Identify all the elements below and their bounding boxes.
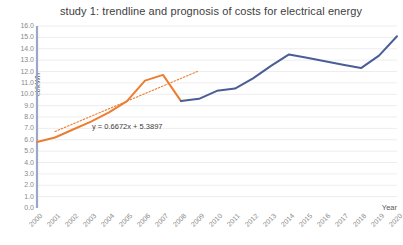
data-series-line	[181, 36, 397, 101]
chart-container: study 1: trendline and prognosis of cost…	[0, 0, 403, 245]
gridlines	[37, 26, 397, 197]
trendline-equation-label: y = 0.6672x + 5.3897	[92, 122, 162, 131]
plot-area	[0, 0, 403, 245]
data-series-layer	[37, 36, 397, 142]
